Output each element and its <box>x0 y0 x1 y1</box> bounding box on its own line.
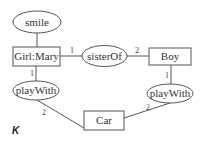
node-car: Car <box>84 111 124 130</box>
cardinality-boy-playwith: 1 <box>165 71 169 80</box>
sisterof-label: sisterOf <box>87 50 122 62</box>
node-playwith-right: playWith <box>147 84 193 103</box>
node-boy: Boy <box>149 48 191 65</box>
cardinality-playwith-left-car: 2 <box>42 108 46 117</box>
boy-label: Boy <box>161 50 180 62</box>
car-label: Car <box>96 114 112 126</box>
node-sisterof: sisterOf <box>82 46 127 67</box>
graph-svg: smile Girl:Mary sisterOf Boy playWith pl… <box>0 0 202 143</box>
panel-label: K <box>12 125 20 136</box>
playwith-right-label: playWith <box>150 87 191 99</box>
smile-label: smile <box>25 16 49 28</box>
cardinality-girl-sisterof: 1 <box>70 46 74 55</box>
cardinality-playwith-right-car: 2 <box>146 103 150 112</box>
girl-mary-label: Girl:Mary <box>14 50 59 62</box>
node-playwith-left: playWith <box>13 81 59 100</box>
cardinality-girl-playwith: 1 <box>30 69 34 78</box>
diagram-canvas: smile Girl:Mary sisterOf Boy playWith pl… <box>0 0 202 143</box>
playwith-left-label: playWith <box>16 84 57 96</box>
node-smile: smile <box>13 11 61 33</box>
node-girl-mary: Girl:Mary <box>13 47 60 66</box>
cardinality-sisterof-boy: 2 <box>135 46 139 55</box>
